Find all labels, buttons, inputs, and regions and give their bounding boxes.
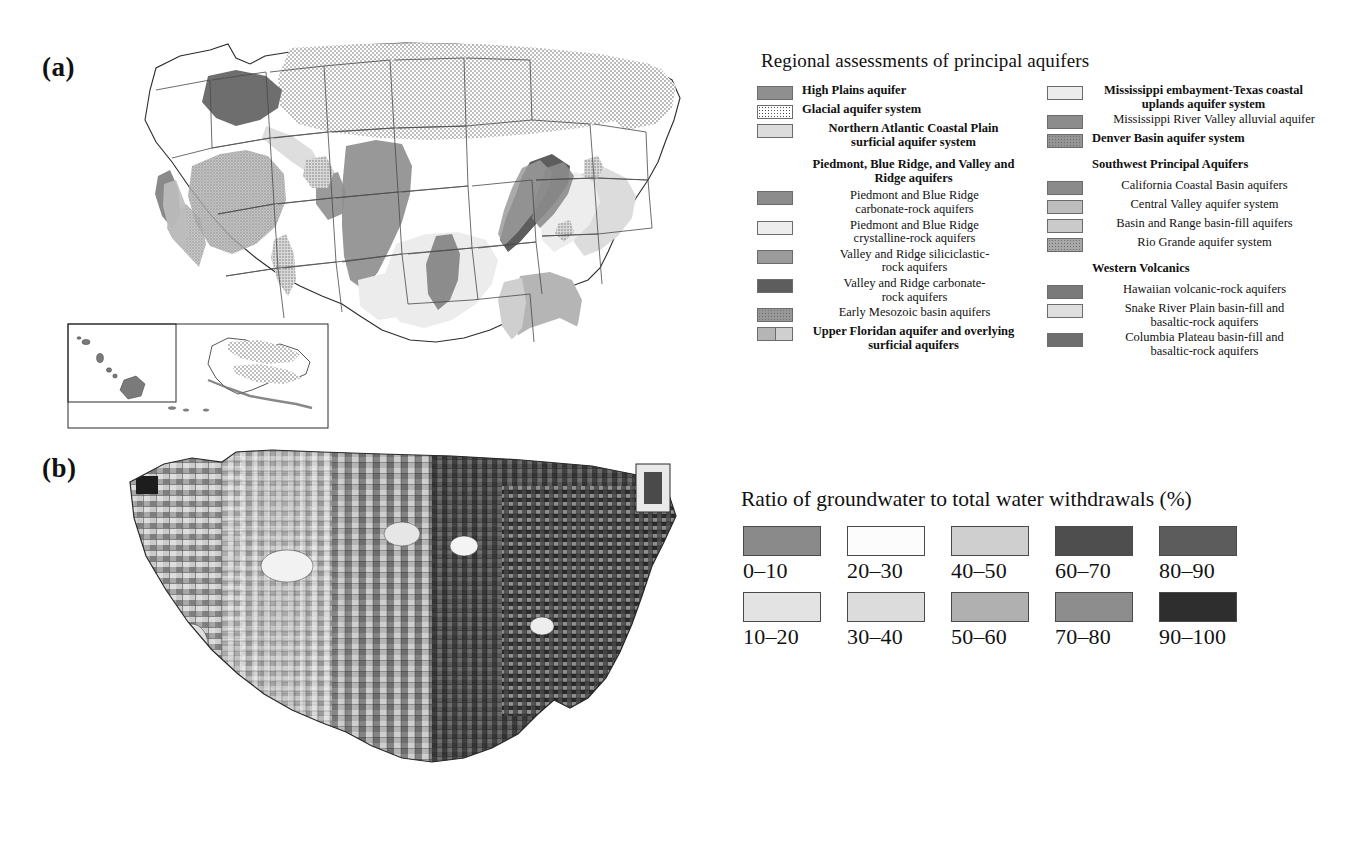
ratio-class-0-10: 0–10 [743, 526, 847, 586]
legend-entry: Southwest Principal Aquifers [1047, 158, 1315, 175]
legend-entry-label: Valley and Ridge carbonate-rock aquifers [802, 277, 1025, 304]
map-groundwater-ratio [72, 446, 732, 816]
legend-entry: Glacial aquifer system [757, 103, 1025, 120]
legend-entry: Hawaiian volcanic-rock aquifers [1047, 283, 1315, 300]
legend-entry: Valley and Ridge carbonate-rock aquifers [757, 277, 1025, 304]
ratio-class-30-40: 30–40 [847, 592, 951, 652]
ratio-swatch [951, 592, 1029, 622]
legend-entry: Mississippi River Valley alluvial aquife… [1047, 113, 1315, 130]
groundwater-ratio-map-svg [72, 446, 732, 816]
legend-entry-label: Basin and Range basin-fill aquifers [1092, 217, 1315, 231]
ratio-label: 30–40 [847, 622, 951, 652]
ratio-swatch [847, 592, 925, 622]
ratio-ramp-column: 20–3030–40 [847, 526, 951, 654]
legend-entry: California Coastal Basin aquifers [1047, 179, 1315, 196]
ratio-class-80-90: 80–90 [1159, 526, 1263, 586]
ratio-ramp-column: 80–9090–100 [1159, 526, 1263, 654]
ratio-class-90-100: 90–100 [1159, 592, 1263, 652]
legend-entry: Basin and Range basin-fill aquifers [1047, 217, 1315, 234]
ratio-label: 10–20 [743, 622, 847, 652]
ratio-color-ramp: 0–1010–2020–3030–4040–5050–6060–7070–808… [737, 526, 1317, 654]
legend-entry: Piedmont and Blue Ridgecarbonate-rock aq… [757, 189, 1025, 216]
legend-a-left-column: High Plains aquiferGlacial aquifer syste… [757, 84, 1025, 354]
legend-swatch [757, 279, 793, 293]
ratio-ramp-column: 40–5050–60 [951, 526, 1055, 654]
legend-swatch [1047, 219, 1083, 233]
legend-swatch [757, 221, 793, 235]
legend-entry-label: Glacial aquifer system [802, 103, 1025, 117]
legend-entry-label: Early Mesozoic basin aquifers [802, 306, 1025, 320]
legend-swatch [1047, 238, 1083, 252]
legend-swatch-placeholder [1047, 160, 1083, 174]
ratio-swatch [743, 526, 821, 556]
ratio-class-10-20: 10–20 [743, 592, 847, 652]
ratio-swatch [1055, 592, 1133, 622]
legend-entry-label: Columbia Plateau basin-fill andbasaltic-… [1092, 331, 1315, 358]
legend-entry-label: Northern Atlantic Coastal Plainsurficial… [802, 122, 1025, 149]
ratio-label: 80–90 [1159, 556, 1263, 586]
legend-entry: Piedmont and Blue Ridgecrystalline-rock … [757, 219, 1025, 246]
ratio-class-50-60: 50–60 [951, 592, 1055, 652]
legend-entry-label: Snake River Plain basin-fill andbasaltic… [1092, 302, 1315, 329]
legend-swatch-placeholder [757, 160, 793, 174]
legend-swatch-split [757, 327, 793, 341]
legend-swatch [1047, 115, 1083, 129]
legend-entry: Piedmont, Blue Ridge, and Valley andRidg… [757, 158, 1025, 185]
ratio-class-40-50: 40–50 [951, 526, 1055, 586]
legend-entry: Mississippi embayment-Texas coastaluplan… [1047, 84, 1315, 111]
legend-a-title: Regional assessments of principal aquife… [757, 50, 1332, 72]
legend-swatch [757, 250, 793, 264]
legend-entry: Northern Atlantic Coastal Plainsurficial… [757, 122, 1025, 149]
legend-entry-label: Mississippi River Valley alluvial aquife… [1092, 113, 1315, 127]
ratio-label: 50–60 [951, 622, 1055, 652]
ratio-label: 20–30 [847, 556, 951, 586]
legend-entry: Early Mesozoic basin aquifers [757, 306, 1025, 323]
legend-entry-label: High Plains aquifer [802, 84, 1025, 98]
legend-swatch [757, 105, 793, 119]
ratio-label: 40–50 [951, 556, 1055, 586]
inset-box [68, 324, 328, 428]
legend-entry-label: Denver Basin aquifer system [1092, 132, 1315, 146]
ratio-swatch [1159, 592, 1237, 622]
legend-b-title: Ratio of groundwater to total water with… [737, 487, 1317, 512]
ratio-swatch [1159, 526, 1237, 556]
legend-swatch [757, 308, 793, 322]
ratio-swatch [743, 592, 821, 622]
principal-aquifers-map-svg [60, 28, 750, 438]
legend-entry-label: Western Volcanics [1092, 262, 1315, 276]
ratio-swatch [847, 526, 925, 556]
legend-entry-label: Hawaiian volcanic-rock aquifers [1092, 283, 1315, 297]
ratio-class-70-80: 70–80 [1055, 592, 1159, 652]
legend-entry-label: Upper Floridan aquifer and overlyingsurf… [802, 325, 1025, 352]
legend-principal-aquifers: Regional assessments of principal aquife… [757, 50, 1332, 361]
legend-entry-label: California Coastal Basin aquifers [1092, 179, 1315, 193]
legend-entry-label: Valley and Ridge siliciclastic-rock aqui… [802, 248, 1025, 275]
ratio-label: 0–10 [743, 556, 847, 586]
legend-swatch [1047, 134, 1083, 148]
legend-entry-label: Mississippi embayment-Texas coastaluplan… [1092, 84, 1315, 111]
ratio-label: 90–100 [1159, 622, 1263, 652]
ratio-class-60-70: 60–70 [1055, 526, 1159, 586]
legend-entry: Upper Floridan aquifer and overlyingsurf… [757, 325, 1025, 352]
map-principal-aquifers [60, 28, 750, 438]
legend-entry: Columbia Plateau basin-fill andbasaltic-… [1047, 331, 1315, 358]
ratio-ramp-column: 0–1010–20 [743, 526, 847, 654]
legend-entry: Western Volcanics [1047, 262, 1315, 279]
legend-swatch [757, 191, 793, 205]
legend-swatch [1047, 86, 1083, 100]
legend-entry: Rio Grande aquifer system [1047, 236, 1315, 253]
legend-swatch [1047, 304, 1083, 318]
ratio-class-20-30: 20–30 [847, 526, 951, 586]
legend-entry-label: Rio Grande aquifer system [1092, 236, 1315, 250]
legend-entry-label: Piedmont and Blue Ridgecrystalline-rock … [802, 219, 1025, 246]
legend-entry: Valley and Ridge siliciclastic-rock aqui… [757, 248, 1025, 275]
ratio-label: 70–80 [1055, 622, 1159, 652]
legend-groundwater-ratio: Ratio of groundwater to total water with… [737, 487, 1317, 654]
legend-entry: Snake River Plain basin-fill andbasaltic… [1047, 302, 1315, 329]
legend-entry: Denver Basin aquifer system [1047, 132, 1315, 149]
legend-entry: High Plains aquifer [757, 84, 1025, 101]
ratio-ramp-column: 60–7070–80 [1055, 526, 1159, 654]
ratio-swatch [951, 526, 1029, 556]
legend-swatch-placeholder [1047, 264, 1083, 278]
legend-swatch [1047, 181, 1083, 195]
